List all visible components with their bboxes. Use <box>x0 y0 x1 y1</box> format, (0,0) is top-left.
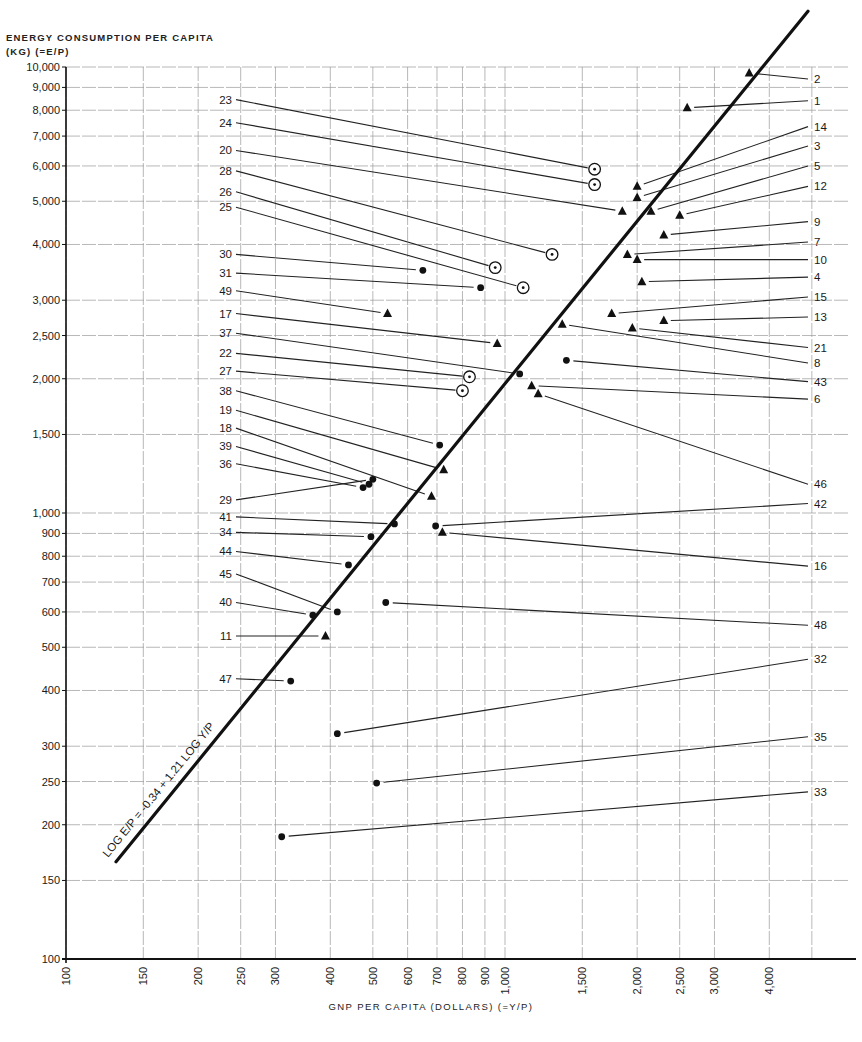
triangle-marker <box>607 309 616 318</box>
leader-line <box>634 242 808 254</box>
circled-dot-center <box>593 183 596 186</box>
leader-line <box>449 533 808 566</box>
leader-line <box>236 574 331 610</box>
y-tick-label: 5,000 <box>32 195 60 207</box>
point-label: 29 <box>219 494 232 506</box>
point-label: 16 <box>814 560 827 572</box>
leader-line <box>443 504 808 526</box>
point-label: 6 <box>814 393 820 405</box>
point-label: 42 <box>814 498 827 510</box>
triangle-marker <box>659 230 668 239</box>
triangle-marker <box>623 249 632 257</box>
dot-marker <box>345 561 352 568</box>
point-label: 2 <box>814 73 820 85</box>
leader-lines <box>236 74 808 837</box>
y-tick-label: 900 <box>42 527 60 539</box>
leader-line <box>236 602 306 614</box>
leader-line <box>236 254 416 269</box>
leader-line <box>671 317 808 320</box>
y-tick-label: 700 <box>42 576 60 588</box>
point-label: 12 <box>814 180 827 192</box>
y-tick-label: 800 <box>42 550 60 562</box>
point-label: 28 <box>219 165 232 177</box>
leader-line <box>236 123 588 184</box>
leader-line <box>539 386 808 399</box>
leader-line <box>236 353 463 376</box>
triangle-marker <box>383 309 392 318</box>
x-tick-label: 900 <box>479 967 491 985</box>
x-tick-label: 2,000 <box>631 967 643 995</box>
point-label: 24 <box>219 117 232 129</box>
point-label: 47 <box>219 673 232 685</box>
point-label: 27 <box>219 365 232 377</box>
dot-marker <box>419 267 426 274</box>
dot-marker <box>477 284 484 291</box>
point-label: 33 <box>814 786 827 798</box>
point-label: 43 <box>814 376 827 388</box>
point-label: 32 <box>814 653 827 665</box>
x-tick-label: 4,000 <box>763 967 775 995</box>
triangle-marker <box>745 68 754 77</box>
leader-line <box>644 146 808 195</box>
x-tick-label: 700 <box>431 967 443 985</box>
point-label: 37 <box>219 327 232 339</box>
y-tick-label: 1,000 <box>32 507 60 519</box>
point-label: 46 <box>814 478 827 490</box>
point-label: 49 <box>219 285 232 297</box>
leader-line <box>649 277 808 281</box>
point-label: 14 <box>814 121 827 133</box>
x-tick-label: 800 <box>456 967 468 985</box>
leader-line <box>236 207 516 286</box>
dot-marker <box>516 371 523 378</box>
regression-equation-label: LOG E/P = -0.34 + 1.21 LOG Y/P <box>100 720 217 859</box>
x-tick-label: 300 <box>269 967 281 985</box>
dot-marker <box>309 612 316 619</box>
grid-lines <box>66 67 848 959</box>
triangle-marker <box>527 381 536 390</box>
x-tick-label: 150 <box>137 967 149 985</box>
leader-line <box>236 273 474 287</box>
leader-line <box>236 171 545 253</box>
triangle-marker <box>558 319 567 328</box>
point-label: 4 <box>814 271 821 283</box>
dot-marker <box>563 357 570 364</box>
y-tick-label: 200 <box>42 819 60 831</box>
triangle-marker <box>321 631 330 640</box>
leader-line <box>236 291 381 313</box>
leader-line <box>236 192 489 266</box>
dot-marker <box>432 523 439 530</box>
circled-dot-center <box>522 286 525 289</box>
leader-line <box>694 101 808 108</box>
point-label: 3 <box>814 140 820 152</box>
y-tick-label: 10,000 <box>26 61 60 73</box>
point-label: 19 <box>219 404 232 416</box>
point-label: 31 <box>219 267 232 279</box>
y-tick-label: 7,000 <box>32 130 60 142</box>
triangle-marker <box>633 192 642 201</box>
x-tick-label: 2,500 <box>674 967 686 995</box>
x-axis-title: GNP PER CAPITA (DOLLARS) (=Y/P) <box>0 1001 862 1012</box>
dot-marker <box>436 442 443 449</box>
triangle-marker <box>659 316 668 325</box>
leader-line <box>236 446 362 482</box>
y-tick-label: 400 <box>42 684 60 696</box>
point-label: 30 <box>219 248 232 260</box>
dot-marker <box>360 484 367 491</box>
x-tick-label: 400 <box>324 967 336 985</box>
dot-marker <box>334 609 341 616</box>
triangle-marker <box>618 206 627 215</box>
y-tick-label: 500 <box>42 641 60 653</box>
x-tick-label: 250 <box>235 967 247 985</box>
regression-line-path <box>116 11 808 862</box>
point-label: 18 <box>219 422 232 434</box>
point-labels: 1234567891011121314151617181920212223242… <box>219 73 827 798</box>
circled-dot-center <box>593 168 596 171</box>
leader-line <box>236 100 588 168</box>
point-label: 34 <box>219 526 232 538</box>
y-tick-label: 9,000 <box>32 81 60 93</box>
triangle-marker <box>438 527 447 536</box>
point-label: 21 <box>814 342 827 354</box>
point-label: 41 <box>219 511 232 523</box>
dot-marker <box>366 481 373 488</box>
y-tick-label: 150 <box>42 874 60 886</box>
